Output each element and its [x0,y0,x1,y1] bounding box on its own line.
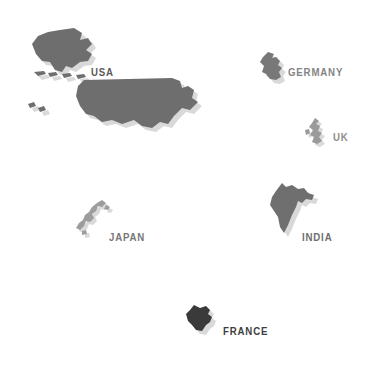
country-label-usa: USA [91,66,114,78]
country-label-japan: JAPAN [109,231,145,243]
usa-shape-icon [22,28,202,136]
france-shape-icon [186,305,222,339]
uk-shape-icon [305,118,333,152]
germany-shape-icon [258,52,292,88]
country-label-germany: GERMANY [288,66,343,78]
country-map-canvas: USA GERMANY UK INDIA [0,0,386,384]
country-label-uk: UK [333,131,349,143]
country-label-india: INDIA [302,231,332,243]
country-label-france: FRANCE [223,325,268,337]
